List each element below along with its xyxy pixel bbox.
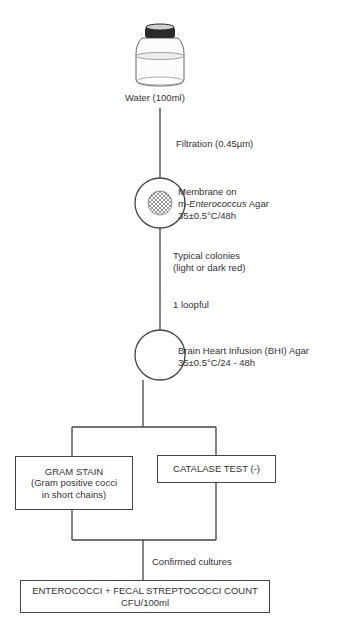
gram-stain-title: GRAM STAIN — [45, 466, 103, 478]
membrane-suffix: Agar — [247, 198, 269, 209]
gram-stain-line2: (Gram positive cocci — [31, 477, 117, 489]
colonies-line1: Typical colonies — [173, 250, 245, 262]
water-bottle-icon — [136, 24, 184, 86]
membrane-prefix: m- — [178, 198, 189, 209]
membrane-line1: Membrane on — [178, 186, 269, 198]
membrane-line2: m-Enterococcus Agar — [178, 198, 269, 210]
gram-stain-box: GRAM STAIN (Gram positive cocci in short… — [15, 456, 133, 510]
bhi-line1: Brain Heart Infusion (BHI) Agar — [178, 345, 309, 357]
bhi-line2: 35±0.5°C/24 - 48h — [178, 357, 309, 369]
membrane-text: Membrane on m-Enterococcus Agar 35±0.5°C… — [178, 186, 269, 222]
catalase-test-box: CATALASE TEST (-) — [157, 455, 276, 483]
confirmed-label: Confirmed cultures — [152, 556, 232, 568]
gram-stain-line3: in short chains) — [42, 489, 106, 501]
colonies-text: Typical colonies (light or dark red) — [173, 250, 245, 274]
loopful-label: 1 loopful — [173, 299, 209, 311]
filtration-label: Filtration (0.45µm) — [176, 138, 253, 150]
result-title: ENTEROCOCCI + FECAL STREPTOCOCCI COUNT — [32, 585, 258, 597]
result-box: ENTEROCOCCI + FECAL STREPTOCOCCI COUNT C… — [20, 580, 270, 613]
bhi-text: Brain Heart Infusion (BHI) Agar 35±0.5°C… — [178, 345, 309, 369]
colonies-line2: (light or dark red) — [173, 262, 245, 274]
membrane-genus: Enterococcus — [189, 198, 247, 209]
sample-label: Water (100ml) — [125, 92, 185, 104]
catalase-label: CATALASE TEST (-) — [173, 463, 260, 475]
membrane-line3: 35±0.5°C/48h — [178, 210, 269, 222]
result-unit: CFU/100ml — [121, 597, 169, 609]
